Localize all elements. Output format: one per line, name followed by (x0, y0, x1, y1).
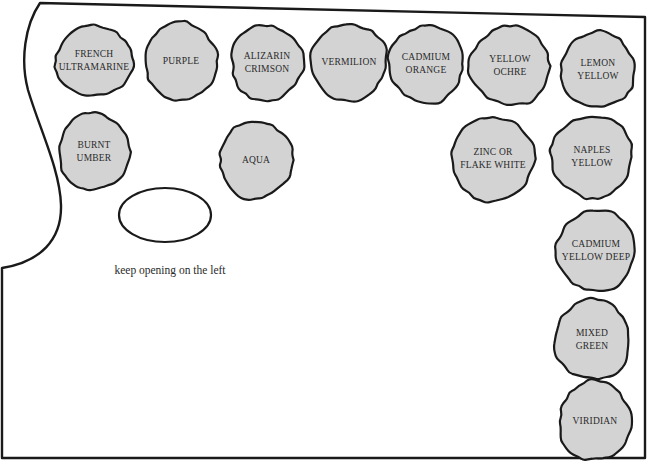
opening-caption: keep opening on the left (114, 264, 225, 276)
thumb-opening (119, 188, 211, 242)
palette-diagram (0, 0, 648, 469)
